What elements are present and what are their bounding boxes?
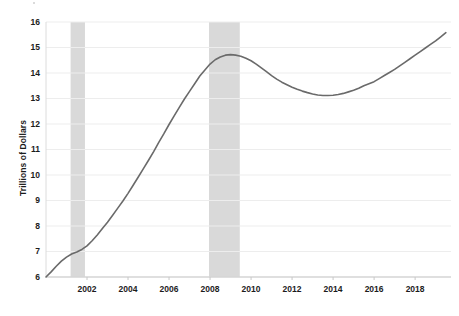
- x-tick-label: 2008: [190, 285, 230, 294]
- x-tick-label: 2006: [149, 285, 189, 294]
- y-tick-label: 9: [18, 196, 40, 205]
- y-tick-label: 10: [18, 171, 40, 180]
- x-tick-label: 2010: [231, 285, 271, 294]
- y-tick-label: 14: [18, 69, 40, 78]
- x-tick-label: 2014: [313, 285, 353, 294]
- data-line: [46, 33, 446, 277]
- y-tick-label: 6: [18, 273, 40, 282]
- y-tick-label: 7: [18, 247, 40, 256]
- chart-figure: Trillions of Dollars 678910111213141516 …: [0, 0, 459, 316]
- x-tick-label: 2004: [108, 285, 148, 294]
- x-tick-label: 2012: [272, 285, 312, 294]
- x-tick-label: 2018: [395, 285, 435, 294]
- data-line-group: [46, 33, 446, 277]
- x-tick-label: 2002: [67, 285, 107, 294]
- plot-area: [0, 0, 459, 316]
- y-tick-label: 16: [18, 18, 40, 27]
- y-tick-label: 13: [18, 94, 40, 103]
- x-tick-label: 2016: [354, 285, 394, 294]
- y-tick-label: 12: [18, 120, 40, 129]
- y-tick-label: 15: [18, 43, 40, 52]
- axis-lines: [46, 22, 451, 280]
- y-tick-label: 11: [18, 145, 40, 154]
- y-tick-label: 8: [18, 222, 40, 231]
